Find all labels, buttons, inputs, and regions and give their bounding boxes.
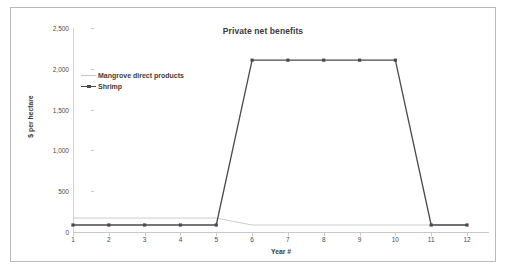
- y-axis-tick-mark: [91, 232, 94, 233]
- x-axis-tick-mark: [360, 233, 361, 236]
- x-axis-tick-mark: [145, 233, 146, 236]
- data-point-marker: [465, 223, 468, 226]
- x-axis-tick-mark: [216, 233, 217, 236]
- y-axis-tick-label: 1,500: [35, 106, 69, 113]
- data-point-marker: [358, 59, 361, 62]
- legend-label: Shrimp: [98, 83, 122, 90]
- x-axis-tick-label: 7: [276, 236, 300, 243]
- x-axis-tick-label: 9: [348, 236, 372, 243]
- x-axis-tick-mark: [73, 233, 74, 236]
- x-axis-tick-mark: [109, 233, 110, 236]
- x-axis-tick-mark: [180, 233, 181, 236]
- chart-legend: Mangrove direct productsShrimp: [81, 70, 184, 92]
- y-axis-tick-label: 2,500: [35, 25, 69, 32]
- data-point-marker: [215, 223, 218, 226]
- x-axis-tick-label: 3: [133, 236, 157, 243]
- legend-swatch-icon: [81, 71, 96, 80]
- y-axis-tick-label: 0: [35, 229, 69, 236]
- x-axis-tick-label: 12: [455, 236, 479, 243]
- y-axis-tick-mark: [91, 150, 94, 151]
- y-axis-tick-label: 500: [35, 188, 69, 195]
- x-axis-tick-mark: [467, 233, 468, 236]
- y-axis-tick-group: 05001,0001,5002,0002,500: [33, 8, 69, 271]
- series-mangrove-direct-products: [73, 218, 467, 225]
- data-point-marker: [430, 223, 433, 226]
- x-axis-tick-label: 10: [383, 236, 407, 243]
- data-point-marker: [322, 59, 325, 62]
- x-axis-title: Year #: [73, 248, 489, 255]
- chart-frame: Private net benefits $ per hectare 05001…: [10, 7, 496, 262]
- data-point-marker: [394, 59, 397, 62]
- x-axis-tick-label: 11: [419, 236, 443, 243]
- legend-item-mangrove: Mangrove direct products: [81, 70, 184, 81]
- y-axis-tick-label: 1,000: [35, 147, 69, 154]
- x-axis-tick-mark: [324, 233, 325, 236]
- x-axis-tick-label: 1: [61, 236, 85, 243]
- x-axis-tick-mark: [431, 233, 432, 236]
- legend-marker-icon: [87, 85, 91, 89]
- legend-swatch-icon: [81, 82, 96, 91]
- x-axis-tick-label: 5: [204, 236, 228, 243]
- data-point-marker: [179, 223, 182, 226]
- y-axis-tick-mark: [91, 191, 94, 192]
- y-axis-tick-mark: [91, 110, 94, 111]
- chart-screenshot: Private net benefits $ per hectare 05001…: [0, 0, 506, 271]
- x-axis-tick-mark: [252, 233, 253, 236]
- series-line: [73, 218, 467, 225]
- x-axis-tick-label: 2: [97, 236, 121, 243]
- y-axis-tick-mark: [91, 28, 94, 29]
- x-axis-tick-mark: [288, 233, 289, 236]
- x-axis-tick-label: 6: [240, 236, 264, 243]
- x-axis-line: [73, 232, 489, 233]
- y-axis-tick-label: 2,000: [35, 65, 69, 72]
- y-axis-line: [73, 28, 74, 233]
- data-point-marker: [250, 59, 253, 62]
- chart-title: Private net benefits: [73, 26, 453, 36]
- x-axis-tick-label: 4: [168, 236, 192, 243]
- legend-label: Mangrove direct products: [98, 72, 184, 79]
- data-point-marker: [143, 223, 146, 226]
- x-axis-tick-mark: [395, 233, 396, 236]
- data-point-marker: [107, 223, 110, 226]
- x-axis-tick-label: 8: [312, 236, 336, 243]
- data-point-marker: [286, 59, 289, 62]
- legend-item-shrimp: Shrimp: [81, 81, 184, 92]
